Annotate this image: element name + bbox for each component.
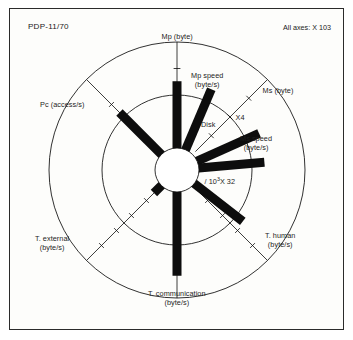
axis-label-sublabel: (byte/s) [148, 298, 206, 307]
axis-label-div-10-3-x32: / 103X 32 [205, 177, 236, 186]
axis-label-text: Pc (access/s) [40, 100, 84, 109]
value-bar-ms-speed [196, 162, 264, 168]
value-bar-div-10-3-x32 [192, 182, 243, 222]
axis-spoke-t-external [86, 188, 158, 260]
center-hub [155, 148, 199, 192]
axis-label-sublabel: (byte/s) [191, 80, 223, 89]
axis-label-t-human: T. human(byte/s) [265, 231, 295, 249]
axis-label-sublabel: (byte/s) [265, 240, 295, 249]
axis-label-suffix: X 32 [220, 177, 235, 186]
value-bar-pc-access [119, 112, 163, 156]
axis-label-text: T. communication [148, 289, 206, 298]
axis-label-disk: Disk [201, 120, 215, 129]
axis-label-text: / 10 [205, 177, 217, 186]
axis-label-mp-speed: Mp speed(byte/s) [191, 71, 223, 89]
annotation-x4: X4 [236, 113, 245, 122]
axis-label-text: Mp (byte) [162, 32, 193, 41]
axis-spoke-t-human [195, 188, 267, 260]
axis-label-ms-byte: Ms (byte) [263, 86, 294, 95]
axis-label-sublabel: (byte/s) [240, 143, 272, 152]
axis-label-text: T. human [265, 231, 295, 240]
axis-label-text: T. external [35, 234, 69, 243]
axis-label-sublabel: (byte/s) [35, 243, 69, 252]
axis-label-text: Mp speed [191, 71, 223, 80]
axis-label-t-communication: T. communication(byte/s) [148, 289, 206, 307]
axis-label-text: Ms speed [240, 134, 272, 143]
axis-label-mp-byte: Mp (byte) [162, 32, 193, 41]
kiviat-figure: PDP-11/70 All axes: X 103 Mp (byte)Mp sp… [0, 0, 353, 340]
axis-label-text: Disk [201, 120, 215, 129]
axis-label-ms-speed: Ms speed(byte/s) [240, 134, 272, 152]
bar-layer [119, 81, 264, 276]
axis-label-pc-access: Pc (access/s) [40, 100, 84, 109]
axis-label-t-external: T. external(byte/s) [35, 234, 69, 252]
axis-label-text: Ms (byte) [263, 86, 294, 95]
